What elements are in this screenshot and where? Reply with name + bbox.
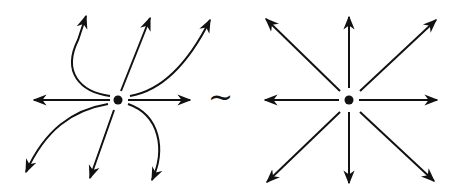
equilibrium-point [345, 96, 354, 105]
left-node-portrait [26, 16, 210, 180]
right-star-portrait [265, 17, 437, 183]
equivalence-symbol: ~ [208, 82, 233, 112]
equilibrium-point [114, 96, 123, 105]
